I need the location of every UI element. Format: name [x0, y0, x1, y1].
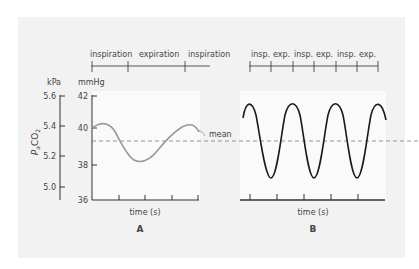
timeline-b-label-6: exp.: [359, 50, 376, 59]
figure-svg: inspiration expiration inspiration insp.…: [0, 0, 419, 269]
plot-a-area: [92, 91, 200, 200]
timeline-b-label-2: exp.: [273, 50, 290, 59]
y-quantity-label: PaCO2: [30, 129, 41, 156]
mmhg-tick-36: 36: [78, 196, 88, 205]
timeline-b-label-4: exp.: [316, 50, 333, 59]
unit-mmhg: mmHg: [78, 78, 105, 87]
mmhg-tick-38: 38: [78, 161, 88, 170]
mean-label: mean: [209, 130, 232, 139]
mmhg-tick-42: 42: [78, 92, 88, 101]
timeline-a: [91, 61, 210, 72]
unit-kpa: kPa: [47, 78, 61, 87]
panel-b-label: B: [310, 224, 317, 234]
kpa-tick-5.2: 5.2: [43, 152, 56, 161]
timeline-b: [249, 61, 378, 72]
kpa-axis: [60, 95, 65, 200]
timeline-b-label-1: insp.: [251, 50, 270, 59]
mmhg-tick-40: 40: [78, 124, 88, 133]
timeline-b-label-3: insp.: [294, 50, 313, 59]
plot-b-xlabel: time (s): [297, 208, 328, 217]
svg-text:PaCO2: PaCO2: [30, 129, 41, 156]
kpa-tick-5.6: 5.6: [43, 92, 56, 101]
timeline-a-label-1: inspiration: [90, 50, 132, 59]
timeline-b-label-5: insp.: [337, 50, 356, 59]
kpa-tick-5.4: 5.4: [43, 122, 56, 131]
timeline-a-label-2: expiration: [139, 50, 179, 59]
plot-a-xlabel: time (s): [129, 208, 160, 217]
kpa-tick-5.0: 5.0: [43, 183, 56, 192]
panel-a-label: A: [137, 224, 144, 234]
timeline-a-label-3: inspiration: [188, 50, 230, 59]
